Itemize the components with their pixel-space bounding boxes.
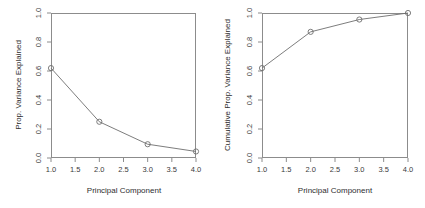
x-tick-label: 2.0 (94, 166, 104, 174)
cumulative-pve-y-axis-title: Cumulative Prop. Variance Explained (223, 19, 232, 151)
y-tick-label: 0.2 (246, 124, 254, 134)
x-tick-label: 1.0 (257, 166, 267, 174)
pve-plot-area (0, 0, 212, 208)
x-tick-label: 1.0 (46, 166, 56, 174)
x-tick-label: 3.5 (378, 166, 388, 174)
y-tick-label: 0.2 (35, 124, 43, 134)
y-tick-label: 0.4 (35, 95, 43, 105)
y-tick-label: 0.8 (246, 37, 254, 47)
y-tick-label: 1.0 (35, 8, 43, 18)
data-series-line (51, 68, 196, 151)
x-tick-label: 3.5 (167, 166, 177, 174)
x-tick-label: 1.5 (70, 166, 80, 174)
pve-panel: Principal Component Prop. Variance Expla… (0, 0, 212, 208)
cumulative-pve-panel: Principal Component Cumulative Prop. Var… (212, 0, 424, 208)
pve-y-axis-title: Prop. Variance Explained (14, 40, 23, 130)
x-tick-label: 1.5 (281, 166, 291, 174)
x-tick-label: 4.0 (191, 166, 201, 174)
x-tick-label: 2.0 (305, 166, 315, 174)
data-series-line (262, 13, 408, 68)
pve-x-axis-title: Principal Component (87, 186, 161, 195)
cumulative-pve-plot-area (212, 0, 424, 208)
x-tick-label: 3.0 (142, 166, 152, 174)
y-tick-label: 0.4 (246, 95, 254, 105)
y-tick-label: 1.0 (246, 8, 254, 18)
x-tick-label: 2.5 (118, 166, 128, 174)
x-tick-label: 2.5 (330, 166, 340, 174)
y-tick-label: 0.6 (246, 66, 254, 76)
y-tick-label: 0.0 (35, 153, 43, 163)
x-tick-label: 3.0 (354, 166, 364, 174)
y-tick-label: 0.8 (35, 37, 43, 47)
x-tick-label: 4.0 (403, 166, 413, 174)
scree-plot-figure: Principal Component Prop. Variance Expla… (0, 0, 425, 208)
y-tick-label: 0.6 (35, 66, 43, 76)
y-tick-label: 0.0 (246, 153, 254, 163)
cumulative-pve-x-axis-title: Principal Component (298, 186, 372, 195)
